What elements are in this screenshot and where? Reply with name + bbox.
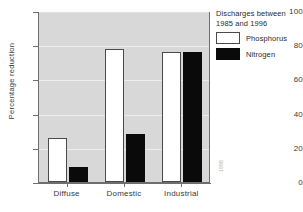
y-axis-tick xyxy=(33,115,38,116)
legend-label-phosphorus: Phosphorus xyxy=(246,34,287,43)
plot-area xyxy=(38,12,210,183)
legend-swatch-nitrogen xyxy=(216,48,240,60)
bar-diffuse-phosphorus xyxy=(48,138,67,182)
x-axis-tick xyxy=(181,184,182,187)
x-axis-label-diffuse: Diffuse xyxy=(38,189,95,198)
bar-domestic-nitrogen xyxy=(126,134,145,182)
y-axis-line xyxy=(38,12,39,184)
x-axis-label-industrial: Industrial xyxy=(153,189,210,198)
bar-domestic-phosphorus xyxy=(105,49,124,182)
y-axis-tick-label: 60 xyxy=(273,76,303,84)
bar-diffuse-nitrogen xyxy=(69,167,88,182)
gridline xyxy=(39,46,209,47)
y-axis-tick xyxy=(33,46,38,47)
source-watermark: 1998 xyxy=(219,160,224,172)
y-axis-tick-label: 0 xyxy=(273,179,303,187)
gridline xyxy=(39,12,209,13)
x-axis-label-domestic: Domestic xyxy=(95,189,152,198)
y-axis-tick-label: 40 xyxy=(273,111,303,119)
y-axis-tick-label: 20 xyxy=(273,145,303,153)
bar-chart: Percentage reduction 020406080100 Diffus… xyxy=(0,0,303,212)
y-axis-title: Percentage reduction xyxy=(8,21,16,141)
legend-item-nitrogen: Nitrogen xyxy=(216,48,302,60)
x-axis-tick xyxy=(67,184,68,187)
legend: Discharges between 1985 and 1996 Phospho… xyxy=(216,9,302,64)
bar-industrial-phosphorus xyxy=(162,52,181,182)
y-axis-tick xyxy=(33,149,38,150)
legend-label-nitrogen: Nitrogen xyxy=(246,50,275,59)
legend-swatch-phosphorus xyxy=(216,32,240,44)
x-axis-tick xyxy=(124,184,125,187)
bar-industrial-nitrogen xyxy=(183,52,202,182)
y-axis-tick xyxy=(33,12,38,13)
y-axis-tick xyxy=(33,80,38,81)
legend-title: Discharges between 1985 and 1996 xyxy=(216,9,300,28)
legend-item-phosphorus: Phosphorus xyxy=(216,32,302,44)
